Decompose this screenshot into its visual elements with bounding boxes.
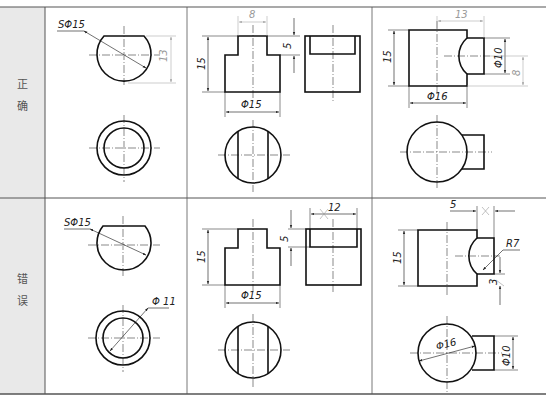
correct-sphere-top-view xyxy=(89,115,160,182)
dim-step: 5 xyxy=(279,236,290,242)
correct-cylinder-front-view xyxy=(388,16,528,108)
wrong-stepped-top-view xyxy=(218,314,290,388)
dim-offset: 8 xyxy=(511,70,522,76)
dim-offset: 5 xyxy=(450,199,456,210)
dim-height: 15 xyxy=(196,250,207,263)
dim-inner-diameter: Φ 11 xyxy=(152,296,176,307)
wrong-sphere-top-view xyxy=(88,305,169,372)
dim-width: 12 xyxy=(328,202,341,213)
dim-radius: R7 xyxy=(506,238,520,249)
dim-height: 15 xyxy=(196,57,207,70)
dim-small: 3 xyxy=(488,279,499,285)
dim-diameter: Φ16 xyxy=(427,91,448,102)
dim-height: 13 xyxy=(158,49,169,62)
drawing-comparison-table: 正 确 错 误 xyxy=(0,0,546,396)
dim-diameter: Φ15 xyxy=(241,290,262,301)
table-grid xyxy=(0,7,546,394)
correct-stepped-side-view xyxy=(305,25,360,101)
dim-height: 15 xyxy=(392,251,403,264)
correct-stepped-top-view xyxy=(218,120,290,192)
dim-diameter: Φ16 xyxy=(435,336,458,352)
wrong-stepped-side-view xyxy=(288,208,361,294)
dim-step: 5 xyxy=(282,43,293,49)
drawing-canvas: SΦ15 13 xyxy=(0,0,546,396)
wrong-cylinder-front-view xyxy=(398,206,520,305)
dim-length: 13 xyxy=(455,9,468,20)
dim-hole-diameter: Φ10 xyxy=(501,345,512,366)
dim-top-width: 8 xyxy=(249,9,255,20)
dim-diameter: Φ15 xyxy=(241,99,262,110)
dim-sphere-diameter: SΦ15 xyxy=(64,217,91,228)
dim-height: 15 xyxy=(382,50,393,63)
dim-sphere-diameter: SΦ15 xyxy=(58,19,85,30)
dim-hole-diameter: Φ10 xyxy=(493,47,504,68)
correct-cylinder-top-view xyxy=(400,115,492,190)
